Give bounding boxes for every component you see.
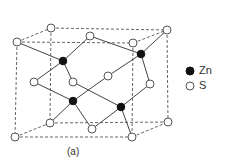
legend-zn-icon xyxy=(186,67,194,75)
bonds xyxy=(17,30,167,137)
legend-s-label: S xyxy=(199,79,206,91)
s-atoms xyxy=(11,24,172,141)
figure-caption: (a) xyxy=(67,146,79,157)
zincblende-structure-diagram xyxy=(0,0,225,164)
legend-zn-label: Zn xyxy=(199,64,212,76)
legend-s-icon xyxy=(186,82,194,90)
